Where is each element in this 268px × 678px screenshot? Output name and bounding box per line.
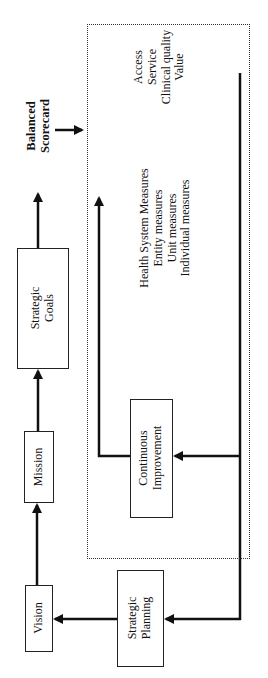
balanced-scorecard-label: Balanced Scorecard: [24, 99, 53, 153]
node-continuous-improvement-label: Continuous Improvement: [137, 426, 165, 491]
node-strategic-goals-label: Strategic Goals: [29, 287, 57, 330]
node-mission-label: Mission: [32, 448, 46, 487]
node-vision-label: Vision: [32, 602, 46, 633]
scorecard-dimensions: Access Service Clinical quality Value: [132, 30, 187, 104]
node-strategic-planning-label: Strategic Planning: [126, 597, 154, 640]
measure-levels: Health System Measures Entity measures U…: [138, 168, 193, 287]
